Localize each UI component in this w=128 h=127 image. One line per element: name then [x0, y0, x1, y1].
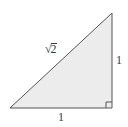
hypotenuse-label: √2 — [45, 43, 57, 55]
triangle-figure — [0, 0, 128, 127]
radicand: 2 — [51, 43, 57, 55]
right-triangle-diagram: √2 1 1 — [0, 0, 128, 127]
vertical-side-label: 1 — [116, 54, 122, 66]
horizontal-side-label: 1 — [58, 111, 64, 123]
triangle-shape — [10, 13, 112, 108]
